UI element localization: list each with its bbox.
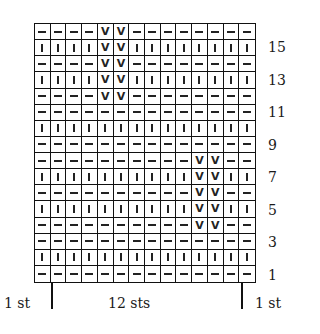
slip-symbol-icon: V	[195, 203, 204, 214]
purl-symbol-icon	[243, 192, 251, 194]
knit-symbol-icon	[167, 253, 169, 261]
knit-symbol-icon	[167, 205, 169, 213]
purl-symbol-icon	[195, 31, 203, 33]
slip-symbol-icon: V	[101, 74, 110, 85]
chart-cell	[114, 234, 130, 250]
right-edge-label: 1 st	[255, 296, 281, 310]
chart-cell	[208, 121, 224, 137]
chart-cell	[161, 250, 177, 266]
chart-cell	[114, 218, 130, 234]
chart-cell	[51, 40, 67, 56]
chart-cell: V	[208, 185, 224, 201]
purl-symbol-icon	[133, 240, 141, 242]
chart-cell	[51, 266, 67, 282]
slip-symbol-icon: V	[195, 220, 204, 231]
purl-symbol-icon	[101, 111, 109, 113]
purl-symbol-icon	[227, 111, 235, 113]
chart-cell	[35, 40, 51, 56]
chart-cell	[192, 72, 208, 88]
knit-symbol-icon	[88, 76, 90, 84]
chart-cell	[224, 185, 240, 201]
purl-symbol-icon	[38, 31, 46, 33]
knit-symbol-icon	[136, 205, 138, 213]
chart-cell	[129, 201, 145, 217]
chart-cell	[224, 105, 240, 121]
chart-cell	[66, 201, 82, 217]
chart-cell	[98, 185, 114, 201]
chart-cell	[51, 185, 67, 201]
chart-cell	[145, 56, 161, 72]
slip-symbol-icon: V	[117, 91, 126, 102]
chart-cell	[161, 218, 177, 234]
chart-cell	[82, 72, 98, 88]
chart-cell	[224, 121, 240, 137]
chart-cell	[51, 250, 67, 266]
purl-symbol-icon	[195, 111, 203, 113]
row-label: 9	[268, 138, 277, 152]
chart-cell	[35, 153, 51, 169]
chart-cell	[82, 105, 98, 121]
slip-symbol-icon: V	[211, 203, 220, 214]
chart-cell	[98, 169, 114, 185]
purl-symbol-icon	[101, 240, 109, 242]
purl-symbol-icon	[180, 224, 188, 226]
purl-symbol-icon	[101, 273, 109, 275]
chart-cell	[66, 137, 82, 153]
chart-cell	[114, 250, 130, 266]
purl-symbol-icon	[70, 143, 78, 145]
purl-symbol-icon	[133, 192, 141, 194]
chart-cell	[98, 105, 114, 121]
chart-cell	[145, 153, 161, 169]
chart-cell	[239, 89, 255, 105]
chart-cell	[35, 266, 51, 282]
chart-cell: V	[192, 201, 208, 217]
chart-cell	[224, 56, 240, 72]
purl-symbol-icon	[38, 95, 46, 97]
chart-cell	[192, 24, 208, 40]
knit-symbol-icon	[57, 253, 59, 261]
knit-symbol-icon	[57, 44, 59, 52]
chart-cell	[66, 185, 82, 201]
purl-symbol-icon	[148, 63, 156, 65]
knit-symbol-icon	[183, 44, 185, 52]
chart-cell	[129, 121, 145, 137]
knit-symbol-icon	[198, 124, 200, 132]
purl-symbol-icon	[54, 273, 62, 275]
chart-cell	[145, 72, 161, 88]
slip-symbol-icon: V	[101, 91, 110, 102]
slip-symbol-icon: V	[101, 42, 110, 53]
chart-cell	[51, 89, 67, 105]
knit-symbol-icon	[57, 76, 59, 84]
chart-cell	[51, 56, 67, 72]
chart-cell	[239, 137, 255, 153]
purl-symbol-icon	[54, 31, 62, 33]
slip-symbol-icon: V	[211, 220, 220, 231]
knit-symbol-icon	[73, 253, 75, 261]
purl-symbol-icon	[227, 224, 235, 226]
purl-symbol-icon	[101, 160, 109, 162]
chart-cell	[224, 201, 240, 217]
purl-symbol-icon	[243, 273, 251, 275]
chart-cell	[66, 153, 82, 169]
knit-symbol-icon	[88, 253, 90, 261]
chart-cell	[114, 121, 130, 137]
chart-cell	[239, 153, 255, 169]
purl-symbol-icon	[164, 95, 172, 97]
knit-symbol-icon	[246, 44, 248, 52]
knit-symbol-icon	[88, 173, 90, 181]
chart-cell	[176, 201, 192, 217]
chart-cell	[98, 201, 114, 217]
purl-symbol-icon	[164, 192, 172, 194]
chart-cell	[98, 234, 114, 250]
knit-symbol-icon	[151, 124, 153, 132]
purl-symbol-icon	[85, 160, 93, 162]
chart-cell	[82, 24, 98, 40]
purl-symbol-icon	[117, 192, 125, 194]
purl-symbol-icon	[180, 160, 188, 162]
chart-cell	[239, 218, 255, 234]
purl-symbol-icon	[164, 111, 172, 113]
purl-symbol-icon	[243, 31, 251, 33]
row-label: 15	[268, 40, 286, 54]
chart-cell	[145, 218, 161, 234]
knit-symbol-icon	[41, 44, 43, 52]
